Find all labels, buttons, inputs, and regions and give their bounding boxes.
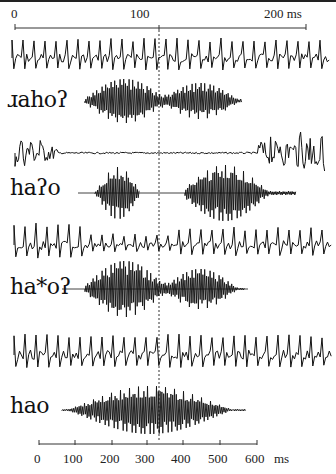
row-label-hao: hao [10,395,49,417]
audio-waveform-ha-star-oq [85,261,244,317]
bottom-axis-label-400: 400 [171,451,191,467]
audio-waveform-rahoq [85,79,242,123]
row-label-haqo: haʔo [10,177,60,199]
row-label-rahoq: ɹahoʔ [7,89,68,111]
bottom-axis-unit-ms: ms [274,451,289,467]
bottom-axis-label-600: 600 [245,451,265,467]
egg-trace-hao [14,334,331,368]
audio-waveform-hao [62,386,246,434]
bottom-axis-label-100: 100 [63,451,83,467]
top-axis-label-0: 0 [11,6,18,22]
row-label-ha-star-oq: ha*oʔ [10,276,71,298]
bottom-axis-label-500: 500 [208,451,228,467]
bottom-axis-label-300: 300 [135,451,155,467]
top-time-axis [15,24,306,30]
egg-trace-haqo [15,132,325,171]
bottom-time-axis [39,440,257,445]
egg-trace-rahoq [12,38,329,70]
bottom-axis-label-200: 200 [100,451,120,467]
bottom-axis-label-0: 0 [34,451,41,467]
audio-waveform-haqo-vowel1 [95,167,139,219]
top-axis-label-200ms: 200 ms [264,6,302,22]
audio-waveform-haqo-vowel2 [185,165,296,221]
waveform-figure [0,0,336,474]
top-axis-label-100: 100 [130,6,150,22]
egg-trace-ha-star-oq [14,223,331,258]
